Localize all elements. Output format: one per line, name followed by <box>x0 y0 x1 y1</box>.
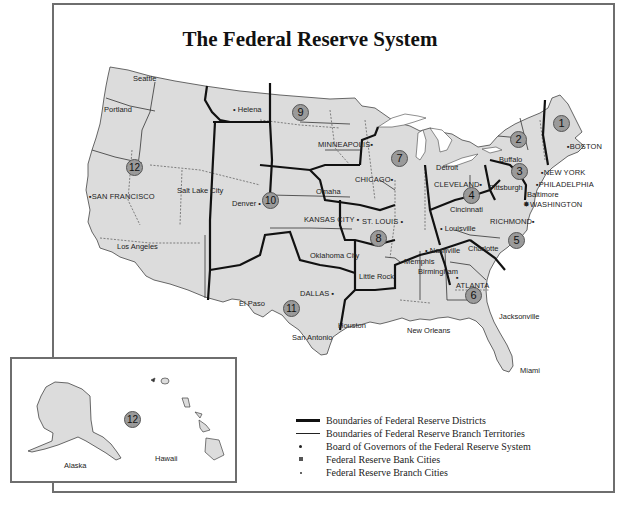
square-icon <box>299 457 303 461</box>
district-2: 2 <box>510 131 527 148</box>
city-los-angeles: Los Angeles <box>117 243 158 251</box>
alaska-hawaii-inset: 12 Alaska Hawaii <box>10 357 237 483</box>
city-oklahoma-city: Oklahoma City <box>310 252 359 260</box>
dot-icon <box>300 472 302 474</box>
city-new-orleans: New Orleans <box>407 327 450 335</box>
alaska-label: Alaska <box>64 462 87 470</box>
city-richmond: RICHMOND▪ <box>490 218 535 226</box>
city-little-rock: Little Rock <box>359 273 394 281</box>
city-seattle: Seattle <box>133 75 156 83</box>
city-cincinnati: Cincinnati <box>450 206 483 214</box>
district-8: 8 <box>370 230 387 247</box>
district-1: 1 <box>553 115 570 132</box>
district-12-inset: 12 <box>124 411 141 428</box>
city-san-francisco: ▪SAN FRANCISCO <box>89 193 155 201</box>
legend-bank-cities: Federal Reserve Bank Cities <box>296 453 531 466</box>
city-minneapolis: MINNEAPOLIS▪ <box>318 141 373 149</box>
star-dot-icon <box>299 445 302 448</box>
district-10: 10 <box>262 192 279 209</box>
legend-label: Boundaries of Federal Reserve Branch Ter… <box>326 428 525 439</box>
city-baltimore: Baltimore <box>527 191 559 199</box>
district-5: 5 <box>508 232 525 249</box>
city-helena: • Helena <box>233 106 262 114</box>
city-birmingham: Birmingham <box>418 268 458 276</box>
district-11: 11 <box>283 300 300 317</box>
city-pittsburgh: Pittsburgh <box>489 184 523 192</box>
city-louisville: • Louisville <box>440 225 476 233</box>
legend-branch-boundaries: Boundaries of Federal Reserve Branch Ter… <box>296 427 531 440</box>
city-st-louis: ST. LOUIS • <box>362 218 403 226</box>
city-miami: Miami <box>520 367 540 375</box>
city-cleveland: CLEVELAND▪ <box>434 181 482 189</box>
thick-line-icon <box>296 419 320 422</box>
city-new-york: ▪NEW YORK <box>541 169 585 177</box>
district-3: 3 <box>511 163 528 180</box>
district-6: 6 <box>465 287 482 304</box>
thin-line-icon <box>296 433 320 434</box>
city-boston: ▪BOSTON <box>567 143 602 151</box>
city-salt-lake-city: Salt Lake City <box>177 187 223 195</box>
hawaii-label: Hawaii <box>155 455 178 463</box>
city-denver: Denver • <box>232 200 261 208</box>
district-12: 12 <box>126 159 143 176</box>
city-el-paso: El Paso <box>239 300 265 308</box>
city-jacksonville: Jacksonville <box>499 313 539 321</box>
city-houston: Houston <box>338 322 366 330</box>
legend-district-boundaries: Boundaries of Federal Reserve Districts <box>296 414 531 427</box>
legend: Boundaries of Federal Reserve Districts … <box>296 414 531 479</box>
city-buffalo: Buffalo <box>499 156 522 164</box>
city-detroit: Detroit <box>436 164 458 172</box>
city-portland: Portland <box>104 106 132 114</box>
district-4: 4 <box>463 187 480 204</box>
legend-branch-cities: Federal Reserve Branch Cities <box>296 466 531 479</box>
city-chicago: CHICAGO▪ <box>355 176 393 184</box>
city-san-antonio: San Antonio <box>292 334 332 342</box>
legend-label: Board of Governors of the Federal Reserv… <box>326 441 531 452</box>
city-nashville: • Nashville <box>425 247 460 255</box>
city-philadelphia: ▪PHILADELPHIA <box>536 181 594 189</box>
legend-label: Federal Reserve Bank Cities <box>326 454 440 465</box>
city-atlanta: ▪ATLANTA <box>456 274 489 289</box>
city-kansas-city: KANSAS CITY ▪ <box>304 216 360 224</box>
legend-board-of-governors: Board of Governors of the Federal Reserv… <box>296 440 531 453</box>
legend-label: Federal Reserve Branch Cities <box>326 467 448 478</box>
district-7: 7 <box>391 150 408 167</box>
district-9: 9 <box>292 104 309 121</box>
city-dallas: DALLAS ▪ <box>300 290 334 298</box>
city-charlotte: Charlotte <box>468 245 498 253</box>
city-memphis: Memphis <box>404 258 434 266</box>
legend-label: Boundaries of Federal Reserve Districts <box>326 415 486 426</box>
city-washington: ✸WASHINGTON <box>523 201 582 209</box>
city-omaha: Omaha <box>316 188 341 196</box>
